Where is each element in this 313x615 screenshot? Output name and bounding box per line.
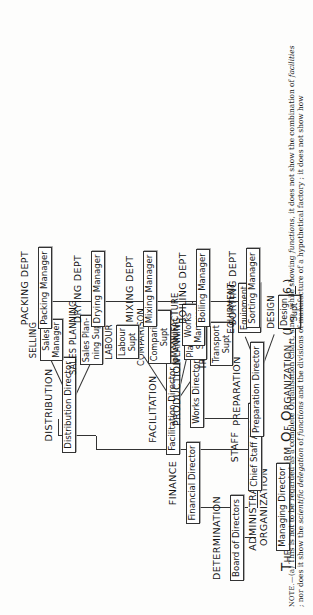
note-text-italic3: scientific <box>296 490 305 524</box>
node-drying-dept-role[interactable]: Drying Manager <box>91 251 105 328</box>
node-determination-role[interactable]: Board of Directors <box>230 495 244 581</box>
note-text-part4 <box>296 487 305 489</box>
node-preparation[interactable]: Preparation Preparation Director <box>232 345 264 437</box>
node-boiling-dept[interactable]: Boiling Dept Boiling Manager <box>178 244 210 332</box>
node-drying-dept[interactable]: Drying Dept Drying Manager <box>73 246 105 332</box>
node-preparation-function: Preparation <box>232 345 243 437</box>
node-labour-function: Labour <box>104 315 115 369</box>
node-mixing-dept-function: Mixing Dept <box>125 246 136 332</box>
rotated-figure-wrapper: The Functional Form of Organization. (Fi… <box>0 0 313 615</box>
node-comparison-role-line2: Supt <box>160 313 170 361</box>
note-text-part3: ; nor does it show the <box>296 524 305 607</box>
node-sorting-dept-role[interactable]: Sorting Manager <box>246 248 260 327</box>
node-mixing-dept[interactable]: Mixing Dept Mixing Manager <box>125 246 157 332</box>
figure-note: Note.—(a) This is not to be regarded as … <box>288 7 305 607</box>
node-finance-role[interactable]: Financial Director <box>186 442 200 525</box>
node-design-function: Design <box>266 287 277 337</box>
node-packing-dept-role[interactable]: Packing Manager <box>38 247 52 328</box>
node-sorting-dept-function: Sorting Dept <box>228 244 239 332</box>
node-packing-dept[interactable]: Packing Dept Packing Manager <box>20 244 52 332</box>
node-labour-role-line2: Supt <box>128 328 138 356</box>
note-text-italic4: delegation <box>296 448 305 488</box>
org-chart-canvas: The Functional Form of Organization. (Fi… <box>0 0 313 615</box>
node-determination-function: Determination <box>212 483 223 593</box>
node-facilitation-function: Facilitation <box>148 355 159 463</box>
note-text-italic2: facilities <box>287 45 296 77</box>
node-sorting-dept[interactable]: Sorting Dept Sorting Manager <box>228 244 260 332</box>
node-mixing-dept-role[interactable]: Mixing Manager <box>143 251 157 328</box>
note-text-italic5: functions <box>296 401 305 436</box>
node-boiling-dept-role[interactable]: Boiling Manager <box>196 249 210 327</box>
node-boiling-dept-function: Boiling Dept <box>178 244 189 332</box>
node-drying-dept-function: Drying Dept <box>73 246 84 332</box>
node-determination[interactable]: Determination Board of Directors <box>212 483 244 593</box>
node-packing-dept-function: Packing Dept <box>20 244 31 332</box>
node-selling-role-line2: Manager <box>52 322 62 357</box>
node-preparation-role[interactable]: Preparation Director <box>250 342 264 437</box>
note-text-part5: of <box>296 436 305 448</box>
connector-spine-to-distribution <box>96 436 97 450</box>
note-text-part6: and the divisions of manufacture of a hy… <box>296 95 305 401</box>
